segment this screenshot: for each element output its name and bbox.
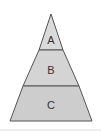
- pyramid-label-a: A: [47, 34, 55, 46]
- pyramid-label-c: C: [47, 99, 55, 111]
- pyramid-diagram: A B C: [0, 0, 101, 136]
- pyramid-label-b: B: [47, 64, 54, 76]
- bottom-divider: [0, 129, 101, 131]
